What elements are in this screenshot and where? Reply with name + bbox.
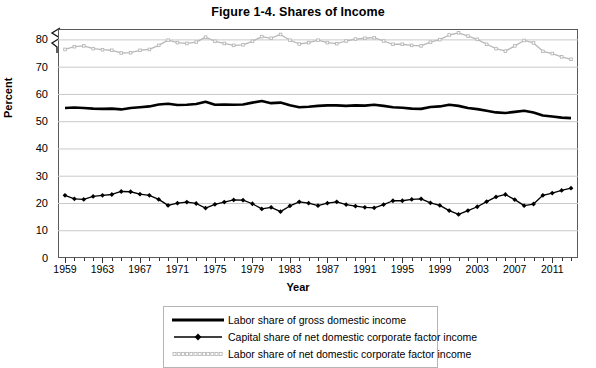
x-tickmark bbox=[543, 258, 544, 261]
x-tickmark bbox=[534, 258, 535, 261]
data-point-marker bbox=[457, 32, 460, 35]
x-tickmark bbox=[459, 258, 460, 261]
y-tick-60: 60 bbox=[22, 89, 48, 100]
data-point-marker bbox=[306, 201, 311, 206]
x-axis-title: Year bbox=[0, 281, 596, 293]
x-tickmark bbox=[299, 258, 300, 261]
x-tick-2007: 2007 bbox=[495, 263, 535, 275]
data-point-marker bbox=[317, 39, 320, 42]
x-tickmark bbox=[177, 258, 178, 263]
x-tickmark bbox=[355, 258, 356, 261]
data-point-marker bbox=[223, 42, 226, 45]
data-point-marker bbox=[194, 201, 199, 206]
data-point-marker bbox=[456, 212, 461, 217]
x-tickmark bbox=[224, 258, 225, 261]
x-tickmark bbox=[168, 258, 169, 261]
data-point-marker bbox=[138, 192, 143, 197]
x-tickmark bbox=[74, 258, 75, 261]
data-point-marker bbox=[504, 50, 507, 53]
data-point-marker bbox=[382, 40, 385, 43]
data-point-marker bbox=[176, 41, 179, 44]
data-point-marker bbox=[429, 41, 432, 44]
x-tick-1991: 1991 bbox=[345, 263, 385, 275]
x-tick-1999: 1999 bbox=[420, 263, 460, 275]
data-point-marker bbox=[560, 56, 563, 59]
data-point-marker bbox=[335, 42, 338, 45]
data-point-marker bbox=[550, 191, 555, 196]
x-tickmark bbox=[552, 258, 553, 263]
data-point-marker bbox=[381, 202, 386, 207]
legend-swatch-beaded-line bbox=[170, 348, 226, 360]
x-tick-2011: 2011 bbox=[532, 263, 572, 275]
data-point-marker bbox=[175, 201, 180, 206]
x-tickmark bbox=[384, 258, 385, 261]
y-tick-10: 10 bbox=[22, 225, 48, 236]
data-point-marker bbox=[241, 198, 246, 203]
data-point-marker bbox=[298, 43, 301, 46]
data-point-marker bbox=[344, 202, 349, 207]
data-point-marker bbox=[372, 205, 377, 210]
data-point-marker bbox=[251, 40, 254, 43]
y-tick-50: 50 bbox=[22, 116, 48, 127]
x-tickmark bbox=[290, 258, 291, 263]
data-point-marker bbox=[428, 201, 433, 206]
x-tickmark bbox=[374, 258, 375, 261]
x-tickmark bbox=[524, 258, 525, 261]
data-point-marker bbox=[551, 52, 554, 55]
x-tickmark bbox=[477, 258, 478, 263]
x-tickmark bbox=[327, 258, 328, 263]
x-tick-1995: 1995 bbox=[382, 263, 422, 275]
legend-swatch-thick-line bbox=[170, 314, 226, 326]
x-tickmark bbox=[215, 258, 216, 263]
x-tickmark bbox=[84, 258, 85, 261]
x-tickmark bbox=[449, 258, 450, 261]
y-tick-80: 80 bbox=[22, 34, 48, 45]
data-point-marker bbox=[419, 196, 424, 201]
data-point-marker bbox=[119, 189, 124, 194]
x-tickmark bbox=[365, 258, 366, 263]
x-tick-1975: 1975 bbox=[195, 263, 235, 275]
x-tickmark bbox=[112, 258, 113, 261]
data-point-marker bbox=[364, 37, 367, 40]
data-point-marker bbox=[72, 196, 77, 201]
data-point-marker bbox=[100, 193, 105, 198]
x-tickmark bbox=[393, 258, 394, 261]
series-line-labor-share-net-domestic-corporate-factor-income bbox=[65, 33, 571, 59]
data-point-marker bbox=[485, 43, 488, 46]
x-tickmark bbox=[243, 258, 244, 261]
data-point-marker bbox=[231, 198, 236, 203]
x-tickmark bbox=[196, 258, 197, 261]
series-markers-labor-share-net bbox=[64, 32, 573, 61]
data-point-marker bbox=[139, 49, 142, 52]
data-point-marker bbox=[203, 206, 208, 211]
data-point-marker bbox=[186, 42, 189, 45]
data-point-marker bbox=[362, 205, 367, 210]
x-tickmark bbox=[121, 258, 122, 261]
x-tickmark bbox=[262, 258, 263, 261]
x-tickmark bbox=[487, 258, 488, 261]
x-tickmark bbox=[206, 258, 207, 261]
data-point-marker bbox=[250, 201, 255, 206]
x-tickmark bbox=[149, 258, 150, 261]
data-point-marker bbox=[447, 208, 452, 213]
series-canvas bbox=[58, 29, 578, 258]
legend-label-1: Capital share of net domestic corporate … bbox=[228, 331, 477, 343]
data-point-marker bbox=[559, 188, 564, 193]
y-tick-40: 40 bbox=[22, 143, 48, 154]
data-point-marker bbox=[513, 45, 516, 48]
legend-item-labor-gdi: Labor share of gross domestic income bbox=[170, 311, 431, 328]
x-tickmark bbox=[505, 258, 506, 261]
x-tick-1959: 1959 bbox=[45, 263, 85, 275]
data-point-marker bbox=[420, 45, 423, 48]
data-point-marker bbox=[260, 35, 263, 38]
legend-label-2: Labor share of net domestic corporate fa… bbox=[228, 348, 471, 360]
data-point-marker bbox=[232, 44, 235, 47]
data-point-marker bbox=[269, 205, 274, 210]
data-point-marker bbox=[353, 204, 358, 209]
legend-swatch-diamond-line bbox=[170, 331, 226, 343]
x-tick-1987: 1987 bbox=[307, 263, 347, 275]
data-point-marker bbox=[503, 192, 508, 197]
data-point-marker bbox=[326, 41, 329, 44]
data-point-marker bbox=[569, 186, 574, 191]
